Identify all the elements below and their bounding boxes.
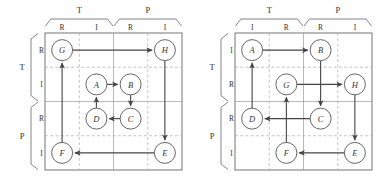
column-sub-label: R <box>284 23 289 32</box>
row-sub-labels: RIRI <box>39 46 44 158</box>
row-group-label: P <box>210 131 215 141</box>
panel-before: TPRIRITPRIRIGHABDCFE <box>0 0 190 178</box>
node-A[interactable]: A <box>242 40 263 61</box>
node-E[interactable]: E <box>344 142 365 163</box>
node-label: H <box>351 80 359 90</box>
column-sub-label: I <box>164 23 167 32</box>
node-D[interactable]: D <box>86 108 107 129</box>
row-group-label: P <box>20 131 25 141</box>
node-F[interactable]: F <box>276 142 297 163</box>
left-panel-canvas: TPRIRITPRIRIGHABDCFE <box>0 0 190 178</box>
node-label: G <box>59 45 65 55</box>
node-D[interactable]: D <box>242 108 263 129</box>
column-group-label: T <box>77 5 83 15</box>
row-sub-label: R <box>39 46 44 55</box>
node-label: A <box>93 80 100 90</box>
column-group-brace <box>236 19 304 26</box>
row-group-brace <box>31 34 38 102</box>
node-label: B <box>318 45 323 55</box>
row-sub-label: I <box>230 46 233 55</box>
node-G[interactable]: G <box>52 40 73 61</box>
column-group-label: P <box>145 5 150 15</box>
row-sub-label: R <box>229 114 234 123</box>
node-E[interactable]: E <box>154 142 175 163</box>
column-sub-label: R <box>128 23 133 32</box>
row-sub-label: R <box>229 80 234 89</box>
node-label: D <box>92 114 100 124</box>
node-label: E <box>351 148 358 158</box>
row-group-braces: TP <box>209 34 228 170</box>
row-sub-label: R <box>39 114 44 123</box>
node-label: D <box>248 114 256 124</box>
row-sub-labels: IRRI <box>229 46 234 158</box>
node-H[interactable]: H <box>344 74 365 95</box>
row-sub-label: I <box>40 149 43 158</box>
node-label: C <box>128 114 134 124</box>
column-group-braces: TP <box>46 5 182 26</box>
node-label: H <box>161 45 169 55</box>
node-C[interactable]: C <box>120 108 141 129</box>
column-sub-label: R <box>60 23 65 32</box>
row-group-brace <box>31 102 38 170</box>
column-sub-label: I <box>251 23 254 32</box>
node-label: E <box>161 148 168 158</box>
node-F[interactable]: F <box>52 142 73 163</box>
column-sub-label: R <box>318 23 323 32</box>
row-group-label: T <box>19 62 25 72</box>
row-sub-label: I <box>230 149 233 158</box>
node-A[interactable]: A <box>86 74 107 95</box>
column-group-label: P <box>335 5 340 15</box>
row-group-label: T <box>209 62 215 72</box>
node-C[interactable]: C <box>310 108 331 129</box>
column-group-brace <box>46 19 114 26</box>
row-group-braces: TP <box>19 34 38 170</box>
panel-after: TPIRRITPIRRIABGHDCFE <box>190 0 380 178</box>
column-group-brace <box>304 19 372 26</box>
node-label: C <box>318 114 324 124</box>
column-sub-label: I <box>354 23 357 32</box>
column-group-label: T <box>267 5 273 15</box>
node-label: G <box>283 80 289 90</box>
node-G[interactable]: G <box>276 74 297 95</box>
node-B[interactable]: B <box>310 40 331 61</box>
row-group-brace <box>221 34 228 102</box>
row-group-brace <box>221 102 228 170</box>
node-label: F <box>59 148 66 158</box>
right-panel-canvas: TPIRRITPIRRIABGHDCFE <box>190 0 380 178</box>
node-label: F <box>283 148 290 158</box>
node-label: A <box>249 45 256 55</box>
column-group-brace <box>114 19 182 26</box>
node-B[interactable]: B <box>120 74 141 95</box>
column-sub-label: I <box>95 23 98 32</box>
node-label: B <box>128 80 133 90</box>
figure-root: TPRIRITPRIRIGHABDCFETPIRRITPIRRIABGHDCFE <box>0 0 380 178</box>
column-sub-labels: RIRI <box>60 23 167 32</box>
row-sub-label: I <box>40 80 43 89</box>
column-sub-labels: IRRI <box>251 23 357 32</box>
node-H[interactable]: H <box>154 40 175 61</box>
column-group-braces: TP <box>236 5 372 26</box>
